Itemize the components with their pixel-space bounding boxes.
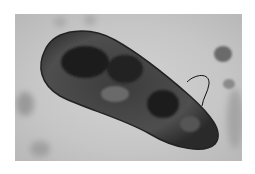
micrograph-svg (15, 14, 242, 161)
micrograph-photo (15, 14, 242, 161)
paramecium-cell (41, 31, 218, 149)
debris-cluster (214, 46, 235, 89)
